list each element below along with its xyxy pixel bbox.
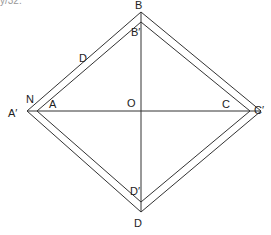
label-B: B xyxy=(135,0,142,11)
label-A-prime: A′ xyxy=(8,108,17,119)
label-C-prime: C′ xyxy=(254,105,264,116)
label-N: N xyxy=(26,94,34,105)
geometry-diagram: y/32. B B′ D N A′ A O C C′ D′ D xyxy=(0,0,271,235)
label-D-prime: D′ xyxy=(130,186,140,197)
label-D: D xyxy=(134,218,142,229)
label-D-upper: D xyxy=(79,53,87,64)
label-A: A xyxy=(49,99,56,110)
corner-text: y/32. xyxy=(0,0,22,6)
inner-square xyxy=(37,22,250,202)
label-B-prime: B′ xyxy=(131,27,140,38)
label-O: O xyxy=(127,98,136,109)
label-C: C xyxy=(222,99,230,110)
outer-square xyxy=(27,12,261,212)
